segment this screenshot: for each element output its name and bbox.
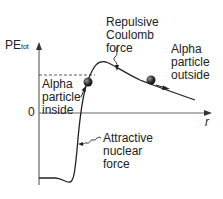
label-line: outside [171, 69, 210, 82]
attractive-pointer-head-icon [78, 142, 83, 146]
label-line: force [103, 158, 153, 171]
alpha-particle-inside-icon [84, 78, 93, 87]
y-axis-label-subscript: tot [21, 43, 29, 50]
label-line: inside [42, 104, 81, 117]
alpha-particle-inside-label: Alpha particle inside [42, 78, 81, 117]
repulsive-coulomb-force-label: Repulsive Coulomb force [106, 16, 159, 55]
attractive-pointer [81, 137, 101, 144]
label-line: force [106, 42, 159, 55]
potential-energy-diagram: PEtot 0 r Repulsive Coulomb force Alpha … [0, 0, 223, 199]
attractive-nuclear-force-label: Attractive nuclear force [103, 132, 153, 171]
inside-arrow-head-icon [82, 86, 87, 92]
outside-arrow-head-icon [162, 86, 170, 91]
y-axis-label: PEtot [5, 39, 29, 53]
y-axis-label-text: PE [5, 38, 21, 52]
alpha-particle-outside-label: Alpha particle outside [171, 43, 210, 82]
alpha-particle-outside-icon [147, 76, 156, 85]
x-axis-label: r [205, 116, 209, 129]
y-axis-arrow-icon [36, 42, 42, 50]
origin-label: 0 [28, 106, 35, 119]
